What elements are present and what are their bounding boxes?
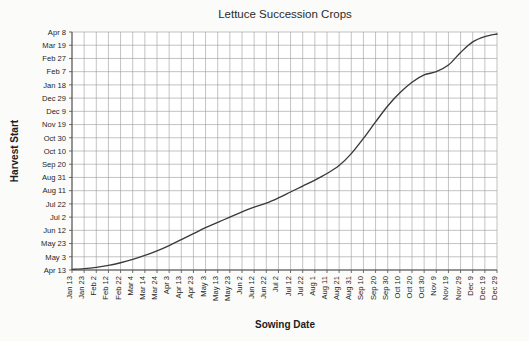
y-axis-tick-label: Dec 29: [42, 94, 66, 103]
x-axis-tick-label: Jun 22: [259, 276, 268, 299]
x-axis-tick-label: Dec 9: [466, 276, 475, 296]
x-axis-tick-label: Jun 2: [235, 276, 244, 295]
x-axis-tick-label: Mar 4: [126, 276, 135, 295]
x-axis-tick-label: Aug 21: [332, 276, 341, 300]
y-axis-tick-label: Feb 27: [42, 54, 66, 63]
x-axis-tick-label: Jan 13: [65, 276, 74, 299]
x-axis-tick-label: Sep 30: [381, 276, 390, 300]
y-axis-tick-label: Oct 10: [44, 147, 66, 156]
x-axis-title: Sowing Date: [255, 319, 315, 330]
y-axis-title: Harvest Start: [9, 119, 20, 182]
y-axis-tick-label: Mar 19: [42, 41, 66, 50]
y-axis-tick-label: Jun 12: [43, 226, 66, 235]
x-axis-tick-label: Jul 12: [284, 276, 293, 296]
x-axis-tick-label: Oct 20: [405, 276, 414, 298]
x-axis-tick-label: Aug 1: [308, 276, 317, 296]
chart-container: Lettuce Succession Crops Apr 8Mar 19Feb …: [0, 0, 529, 341]
x-axis-tick-label: Dec 19: [478, 276, 487, 300]
x-axis-tick-label: Feb 2: [89, 276, 98, 295]
x-axis-tick-label: Aug 31: [344, 276, 353, 300]
y-axis-tick-label: Dec 9: [46, 107, 66, 116]
y-axis-tick-label: Aug 11: [42, 186, 66, 195]
y-axis-tick-label: Oct 30: [44, 134, 66, 143]
y-axis-tick-label: Jul 22: [46, 200, 66, 209]
x-axis-tick-label: May 23: [223, 276, 232, 301]
x-axis-tick-label: Dec 29: [490, 276, 499, 300]
x-axis-tick-label: May 13: [211, 276, 220, 301]
x-axis-tick-label: Oct 10: [393, 276, 402, 298]
x-axis-tick-label: Jul 2: [271, 276, 280, 292]
y-axis-tick-label: May 3: [45, 253, 66, 262]
x-axis-tick-label: Feb 12: [101, 276, 110, 300]
y-axis-tick-label: Jul 2: [50, 213, 66, 222]
x-axis-tick-label: Sep 20: [369, 276, 378, 300]
x-axis-tick-label: Mar 24: [150, 276, 159, 300]
x-axis-tick-label: Jun 12: [247, 276, 256, 299]
x-axis-tick-label: Sep 10: [356, 276, 365, 300]
x-axis-tick-label: Apr 13: [174, 276, 183, 298]
y-axis-tick-label: Apr 8: [48, 28, 66, 37]
x-axis-tick-label: Feb 22: [114, 276, 123, 300]
y-axis-tick-label: Nov 19: [42, 120, 66, 129]
y-axis-tick-label: May 23: [41, 239, 66, 248]
y-axis-tick-label: Apr 13: [44, 266, 66, 275]
x-axis-tick-label: Apr 3: [162, 276, 171, 294]
x-axis-tick-label: Oct 30: [417, 276, 426, 298]
y-axis-tick-label: Sep 20: [42, 160, 66, 169]
lettuce-succession-line-chart: Lettuce Succession Crops Apr 8Mar 19Feb …: [0, 0, 529, 341]
chart-title: Lettuce Succession Crops: [218, 8, 352, 20]
x-axis-tick-label: Nov 19: [441, 276, 450, 300]
x-axis-tick-label: May 3: [199, 276, 208, 297]
y-axis-tick-label: Jan 18: [43, 81, 66, 90]
x-axis-tick-label: Jul 22: [296, 276, 305, 296]
x-axis-tick-label: Apr 23: [186, 276, 195, 298]
x-axis-tick-label: Nov 9: [429, 276, 438, 296]
x-axis-tick-label: Nov 29: [454, 276, 463, 300]
y-axis-tick-label: Feb 7: [47, 67, 66, 76]
x-axis-tick-label: Jan 23: [77, 276, 86, 299]
x-axis-tick-label: Mar 14: [138, 276, 147, 300]
y-axis-tick-label: Aug 31: [42, 173, 66, 182]
x-axis-tick-label: Aug 11: [320, 276, 329, 300]
